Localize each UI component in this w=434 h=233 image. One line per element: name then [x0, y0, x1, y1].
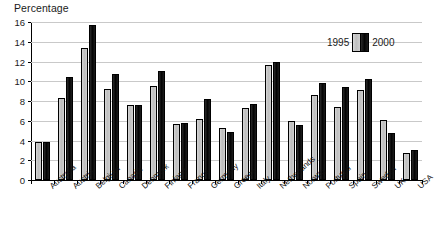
y-axis-tick [28, 160, 32, 161]
bar-1995 [104, 89, 111, 180]
chart-legend: 1995 2000 [327, 33, 395, 52]
x-axis-category-label: Netherlands [278, 184, 284, 191]
bar-1995 [357, 90, 364, 180]
y-axis-tick [28, 101, 32, 102]
bar-1995 [265, 65, 272, 180]
bar-group [192, 22, 215, 180]
x-axis-category-label: Spain [347, 184, 353, 191]
x-axis-category-label: USA [416, 184, 422, 191]
bar-group [169, 22, 192, 180]
bar-group [284, 22, 307, 180]
y-axis-tick [28, 22, 32, 23]
legend-label-2000: 2000 [372, 37, 394, 48]
y-axis-tick-label: 6 [3, 115, 25, 126]
x-axis-category-label: Belgium [94, 184, 100, 191]
x-axis-category-label: Finland [163, 184, 169, 191]
bar-1995 [150, 86, 157, 180]
bar-1995 [311, 95, 318, 180]
y-axis-tick-labels: 0246810121416 [0, 0, 25, 233]
bar-1995 [81, 48, 88, 180]
y-axis-tick-label: 2 [3, 155, 25, 166]
x-axis-category-label: Norway [301, 184, 307, 191]
legend-label-1995: 1995 [327, 37, 349, 48]
x-axis-category-label: Austria [71, 184, 77, 191]
x-axis-category-label: Canada [117, 184, 123, 191]
bar-2000 [43, 142, 50, 181]
y-axis-tick [28, 121, 32, 122]
y-axis-tick-label: 8 [3, 96, 25, 107]
y-axis-tick-label: 12 [3, 56, 25, 67]
bar-group [146, 22, 169, 180]
bar-group [261, 22, 284, 180]
bar-2000 [273, 62, 280, 181]
y-axis-tick [28, 42, 32, 43]
bar-group [100, 22, 123, 180]
y-axis-tick-label: 0 [3, 175, 25, 186]
y-axis-tick [28, 141, 32, 142]
y-axis-tick-label: 14 [3, 36, 25, 47]
legend-swatch-1995 [352, 33, 361, 52]
bar-group [215, 22, 238, 180]
y-axis-tick-label: 10 [3, 76, 25, 87]
x-axis-category-label: UK [393, 184, 399, 191]
y-axis-tick-label: 4 [3, 135, 25, 146]
x-axis-category-label: Portugal [324, 184, 330, 191]
legend-swatch-2000 [361, 33, 370, 52]
x-axis-category-label: Sweden [370, 184, 376, 191]
bar-group [54, 22, 77, 180]
bar-2000 [365, 79, 372, 180]
x-axis-category-label: Greece [232, 184, 238, 191]
y-axis-tick-label: 16 [3, 17, 25, 28]
y-axis-tick [28, 62, 32, 63]
bar-group [399, 22, 422, 180]
bar-group [238, 22, 261, 180]
bar-group [31, 22, 54, 180]
x-axis-category-label: Australia [48, 184, 54, 191]
bar-1995 [403, 153, 410, 180]
x-axis-category-label: Italy [255, 184, 261, 191]
bar-group [123, 22, 146, 180]
x-axis-tick [31, 180, 32, 184]
bar-2000 [411, 150, 418, 180]
legend-swatches [352, 33, 369, 52]
x-axis-category-label: Denmark [140, 184, 146, 191]
x-axis-category-label: France [186, 184, 192, 191]
y-axis-tick [28, 81, 32, 82]
bar-group [77, 22, 100, 180]
bar-chart: Percentage 0246810121416 1995 2000 Austr… [0, 0, 434, 233]
bar-2000 [89, 25, 96, 180]
x-axis-category-label: Germany [209, 184, 215, 191]
bar-1995 [35, 142, 42, 180]
